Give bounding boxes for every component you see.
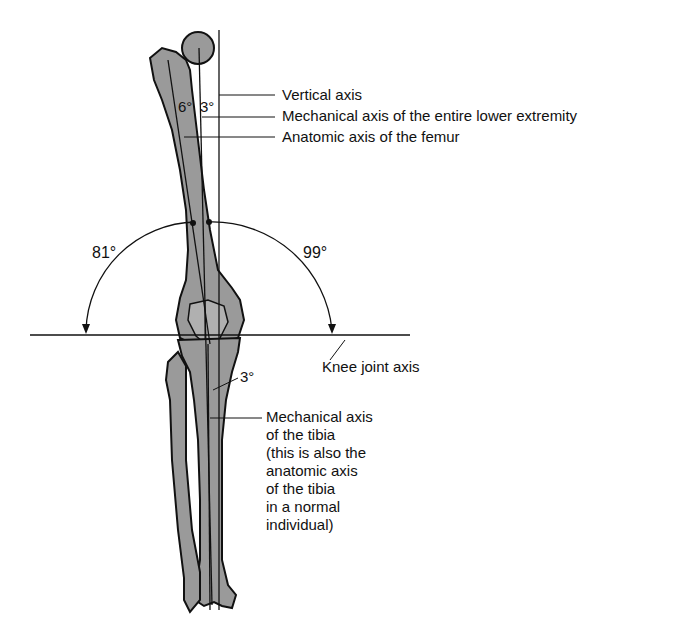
angle-99: 99° [303,244,327,261]
svg-text:(this is also the: (this is also the [266,444,366,461]
lower-extremity-axes-diagram: Vertical axis Mechanical axis of the ent… [0,0,692,627]
femur [150,32,244,348]
svg-text:in a normal: in a normal [266,498,340,515]
label-mechanical-axis: Mechanical axis of the entire lower extr… [282,107,578,124]
angle-81: 81° [92,244,116,261]
label-knee-joint-axis: Knee joint axis [322,358,420,375]
angle-3-tibia: 3° [240,368,254,385]
arrowhead-left-icon [82,324,90,334]
svg-text:individual): individual) [266,516,334,533]
label-vertical-axis: Vertical axis [282,86,362,103]
label-mechanical-axis-tibia: Mechanical axis of the tibia (this is al… [266,408,373,533]
svg-text:of the tibia: of the tibia [266,480,336,497]
femoral-head [182,32,214,64]
tibia-fibula [166,338,240,612]
svg-text:Mechanical axis: Mechanical axis [266,408,373,425]
angle-6: 6° [178,98,192,115]
arrowhead-right-icon [328,324,336,334]
svg-text:of the tibia: of the tibia [266,426,336,443]
angle-3-femur: 3° [200,98,214,115]
svg-text:anatomic axis: anatomic axis [266,462,358,479]
label-anatomic-axis-femur: Anatomic axis of the femur [282,128,460,145]
